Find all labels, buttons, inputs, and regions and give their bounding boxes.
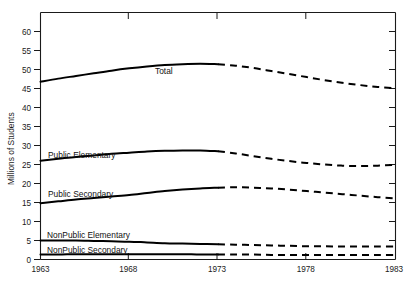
series-label-nonpublic-secondary: NonPublic Secondary bbox=[47, 245, 128, 255]
y-tick-label-60: 60 bbox=[22, 28, 32, 37]
series-line-public-elementary-projected bbox=[218, 151, 396, 166]
series-line-nonpublic-elementary-actual bbox=[41, 240, 219, 244]
series-label-public-secondary: Public Secondary bbox=[48, 189, 114, 199]
y-tick-labels: 0 5 10 15 20 25 30 35 40 45 50 55 60 bbox=[22, 28, 32, 265]
series-line-total-projected bbox=[218, 64, 396, 88]
x-tick-label-1978: 1978 bbox=[297, 265, 316, 274]
student-enrollment-line-chart: 0 5 10 15 20 25 30 35 40 45 50 55 60 196… bbox=[0, 0, 416, 288]
y-tick-label-45: 45 bbox=[22, 85, 32, 94]
y-tick-marks bbox=[34, 32, 41, 260]
y-tick-label-25: 25 bbox=[22, 161, 32, 170]
y-tick-label-40: 40 bbox=[22, 104, 32, 113]
series-label-total: Total bbox=[155, 66, 173, 76]
y-tick-label-10: 10 bbox=[22, 218, 32, 227]
y-tick-marks-right bbox=[389, 32, 396, 241]
y-tick-label-50: 50 bbox=[22, 66, 32, 75]
y-tick-label-55: 55 bbox=[22, 47, 32, 56]
x-tick-label-1983: 1983 bbox=[385, 265, 404, 274]
y-axis-title: Millions of Students bbox=[6, 112, 16, 185]
plot-frame bbox=[41, 13, 396, 260]
series-line-public-secondary-projected bbox=[218, 187, 396, 198]
series-label-nonpublic-elementary: NonPublic Elementary bbox=[47, 230, 131, 240]
y-tick-label-20: 20 bbox=[22, 180, 32, 189]
series-line-nonpublic-elementary-projected bbox=[218, 244, 396, 246]
series-line-total-actual bbox=[41, 64, 219, 82]
chart-container: 0 5 10 15 20 25 30 35 40 45 50 55 60 196… bbox=[0, 0, 416, 288]
series-inline-labels: Total Public Elementary Public Secondary… bbox=[47, 66, 173, 255]
y-tick-label-15: 15 bbox=[22, 199, 32, 208]
x-tick-labels: 1963 1968 1973 1978 1983 bbox=[31, 265, 403, 274]
y-tick-label-5: 5 bbox=[26, 237, 31, 246]
x-tick-label-1963: 1963 bbox=[31, 265, 50, 274]
x-tick-label-1968: 1968 bbox=[119, 265, 138, 274]
x-tick-marks bbox=[128, 13, 305, 260]
y-tick-label-30: 30 bbox=[22, 142, 32, 151]
y-tick-label-0: 0 bbox=[26, 256, 31, 265]
x-tick-label-1973: 1973 bbox=[208, 265, 227, 274]
series-label-public-elementary: Public Elementary bbox=[48, 150, 116, 160]
y-tick-label-35: 35 bbox=[22, 123, 32, 132]
